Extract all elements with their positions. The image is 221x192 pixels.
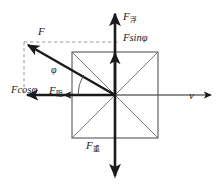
label-force-gravity-text: F <box>86 139 93 151</box>
label-force-resultant: F <box>38 26 45 37</box>
label-force-gravity-subscript: 重 <box>93 145 100 152</box>
label-force-buoyancy-subscript: 浮 <box>130 16 137 23</box>
force-diagram-figure: F浮 Fsinφ F φ Fcosφ F阻 v F重 <box>0 0 221 192</box>
label-force-drag-text: F <box>49 84 56 96</box>
label-velocity: v <box>189 90 194 101</box>
label-force-drag: F阻 <box>49 85 63 97</box>
label-force-drag-subscript: 阻 <box>56 90 63 97</box>
label-force-gravity: F重 <box>86 140 100 152</box>
label-force-cos-component: Fcosφ <box>11 85 37 96</box>
angle-arc-phi <box>78 75 84 95</box>
label-force-sin-component: Fsinφ <box>123 33 147 44</box>
force-diagram-canvas <box>0 0 221 192</box>
label-angle-phi: φ <box>51 65 57 75</box>
label-force-buoyancy: F浮 <box>123 11 137 23</box>
label-force-buoyancy-text: F <box>123 10 130 22</box>
